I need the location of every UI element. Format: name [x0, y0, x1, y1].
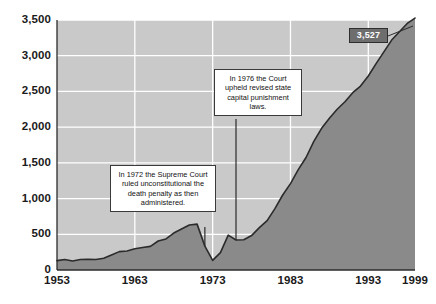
x-tick-label: 1953 [27, 274, 87, 286]
x-tick-label: 1973 [183, 274, 243, 286]
x-tick-label: 1963 [105, 274, 165, 286]
data-label-3527: 3,527 [349, 28, 388, 43]
y-tick-label: 2,500 [0, 85, 51, 96]
y-tick-label: 3,000 [0, 50, 51, 61]
x-tick-label: 1999 [385, 274, 436, 286]
annotation-1976: In 1976 the Court upheld revised state c… [214, 69, 302, 116]
chart-container: 05001,0001,5002,0002,5003,0003,500 19531… [0, 0, 436, 304]
death-penalty-area-chart [0, 0, 436, 304]
x-tick-label: 1983 [260, 274, 320, 286]
y-tick-label: 1,500 [0, 157, 51, 168]
y-tick-label: 500 [0, 228, 51, 239]
y-tick-label: 2,000 [0, 121, 51, 132]
annotation-1972: In 1972 the Supreme Court ruled unconsti… [110, 165, 216, 212]
y-tick-label: 1,000 [0, 193, 51, 204]
y-tick-label: 3,500 [0, 14, 51, 25]
